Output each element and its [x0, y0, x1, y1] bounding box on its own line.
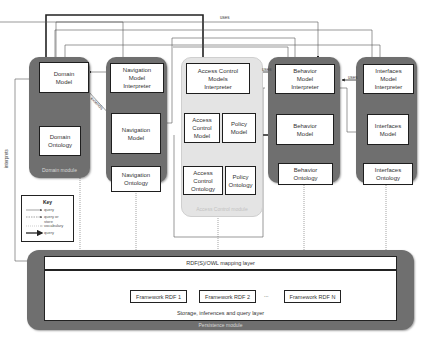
- behavior-interpreter-box[interactable]: Behavior Model Interpreter: [275, 64, 335, 94]
- legend-item-query: query: [44, 208, 54, 213]
- domain-ontology-box[interactable]: Domain Ontology: [39, 126, 81, 156]
- uses-label-top: uses: [220, 15, 230, 20]
- access-control-ontology-box[interactable]: Access Control Ontology: [183, 166, 223, 195]
- navigation-interpreter-box[interactable]: Navigation Model Interpreter: [110, 63, 164, 93]
- policy-model-box[interactable]: Policy Model: [222, 113, 256, 143]
- navigation-ontology-box[interactable]: Navigation Ontology: [111, 166, 161, 192]
- legend-key: Key query query or store vocabulary quer…: [21, 195, 74, 242]
- behavior-model-box[interactable]: Behavior Model: [276, 114, 334, 145]
- storage-layer-label: Storage, inferences and query layer: [45, 310, 396, 316]
- mapping-layer-label: RDF(S)/OWL mapping layer: [45, 260, 396, 266]
- interfaces-ontology-box[interactable]: Interfaces Ontology: [363, 163, 413, 185]
- access-control-interpreter-box[interactable]: Access Control Models Interpreter: [186, 63, 250, 94]
- legend-symbols: [25, 208, 45, 240]
- domain-module-label: Domain module: [29, 167, 90, 173]
- behavior-ontology-box[interactable]: Behavior Ontology: [278, 163, 333, 185]
- uses-label-interfaces: uses: [348, 75, 358, 80]
- persistence-module-label: Persistence module: [27, 322, 414, 328]
- framework-rdf-2[interactable]: Framework RDF 2: [199, 290, 256, 303]
- legend-item-vocabulary: vocabulary: [44, 224, 63, 229]
- legend-item-query-thick: query: [44, 231, 54, 236]
- uses-label-behavior: uses: [262, 67, 272, 72]
- legend-title: Key: [22, 199, 73, 205]
- framework-rdf-n[interactable]: Framework RDF N: [284, 290, 341, 303]
- access-control-model-box[interactable]: Access Control Model: [184, 113, 220, 143]
- navigation-model-box[interactable]: Navigation Model: [111, 113, 161, 154]
- interfaces-interpreter-box[interactable]: Interfaces Model Interpreter: [363, 64, 414, 94]
- access-control-module-label: Access Control module: [182, 206, 262, 212]
- framework-rdf-1[interactable]: Framework RDF 1: [130, 290, 187, 303]
- domain-model-box[interactable]: Domain Model: [39, 62, 89, 93]
- interfaces-model-box[interactable]: Interfaces Model: [367, 114, 409, 145]
- policy-ontology-box[interactable]: Policy Ontology: [225, 166, 256, 195]
- mapping-layer: RDF(S)/OWL mapping layer: [44, 256, 397, 270]
- framework-ellipsis: ...: [264, 292, 269, 298]
- interprets-label: interprets: [4, 149, 9, 168]
